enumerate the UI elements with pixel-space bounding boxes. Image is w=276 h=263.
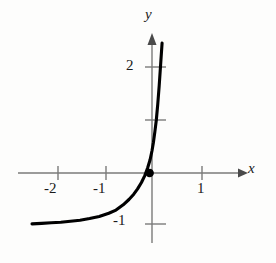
x-tick-label-1: 1 [197, 180, 205, 197]
graph-figure [0, 0, 276, 263]
x-tick-label-minus2: -2 [44, 180, 57, 197]
x-tick-label-minus1: -1 [93, 180, 106, 197]
y-tick-label-minus1: -1 [113, 212, 126, 229]
y-axis-label: y [145, 6, 152, 23]
x-axis-arrowhead [238, 169, 248, 178]
y-tick-label-2: 2 [126, 57, 134, 74]
y-axis-arrowhead [148, 33, 157, 45]
x-axis-label: x [248, 160, 255, 177]
marked-point [145, 169, 154, 178]
